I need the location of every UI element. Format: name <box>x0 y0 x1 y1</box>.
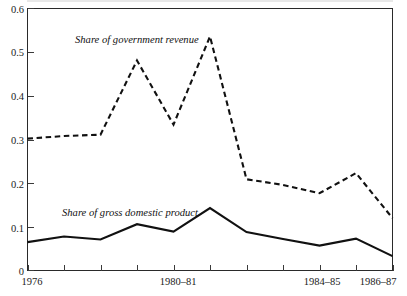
annotation-government-revenue: Share of government revenue <box>75 34 199 45</box>
annotation-gross-domestic-product: Share of gross domestic product <box>62 207 199 218</box>
annotations-group: Share of government revenue Share of gro… <box>62 34 199 218</box>
y-tick-label-0.3: 0.3 <box>11 135 24 146</box>
chart-figure: 0.6 0.5 0.4 0.3 0.2 0.1 0 1976 1980–81 1… <box>0 0 407 296</box>
x-axis-labels: 1976 1980–81 1984–85 1986–87 <box>22 276 397 287</box>
y-tick-label-0.5: 0.5 <box>11 47 24 58</box>
y-tick-label-0.2: 0.2 <box>11 179 24 190</box>
y-tick-label-0.4: 0.4 <box>11 91 25 102</box>
x-tick-label-1976: 1976 <box>22 276 43 287</box>
series-line-government-revenue <box>28 36 393 218</box>
y-tick-label-0.1: 0.1 <box>11 223 24 234</box>
x-tick-label-1984-85: 1984–85 <box>304 276 341 287</box>
x-tick-label-1980-81: 1980–81 <box>160 276 197 287</box>
line-chart: 0.6 0.5 0.4 0.3 0.2 0.1 0 1976 1980–81 1… <box>0 0 407 296</box>
y-tick-label-0.6: 0.6 <box>11 4 24 15</box>
plot-frame <box>27 8 393 271</box>
y-axis-labels: 0.6 0.5 0.4 0.3 0.2 0.1 0 <box>11 4 25 277</box>
data-series-group <box>28 36 393 256</box>
y-tick-label-0: 0 <box>19 266 24 277</box>
x-tick-label-1986-87: 1986–87 <box>360 276 397 287</box>
cropped-title-artifact <box>27 0 393 2</box>
x-axis-ticks <box>29 265 394 271</box>
